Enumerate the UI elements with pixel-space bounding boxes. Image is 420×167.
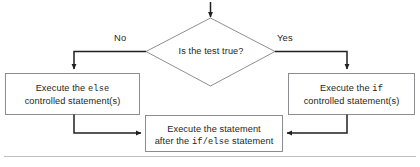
edge-label-no: No [114, 32, 126, 43]
box-if-branch [289, 74, 415, 115]
box-else-branch [6, 74, 140, 115]
edge-no [74, 52, 146, 70]
edge-yes [275, 52, 347, 70]
edge-if-to-after [287, 115, 347, 134]
decision-label: Is the test true? [155, 46, 267, 56]
decision-text: Is the test true? [178, 46, 243, 56]
edge-label-yes: Yes [277, 32, 293, 43]
flowchart-canvas: Is the test true? No Yes Execute the els… [0, 0, 420, 167]
box-after-statement [146, 116, 283, 152]
flowchart-graphics [0, 0, 420, 167]
edge-else-to-after [74, 115, 141, 134]
